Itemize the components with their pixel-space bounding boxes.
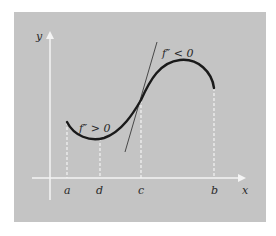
- concave-down-annotation: f″ < 0: [161, 47, 193, 60]
- point-label-a: a: [64, 184, 71, 197]
- concave-up-annotation: f″ > 0: [78, 122, 110, 135]
- point-label-d: d: [96, 184, 103, 197]
- y-axis-label: y: [35, 30, 43, 43]
- point-label-c: c: [138, 184, 144, 197]
- x-axis-label: x: [242, 184, 249, 197]
- concavity-diagram: f″ > 0 f″ < 0 y x a d c b: [0, 0, 276, 236]
- point-label-b: b: [211, 184, 218, 197]
